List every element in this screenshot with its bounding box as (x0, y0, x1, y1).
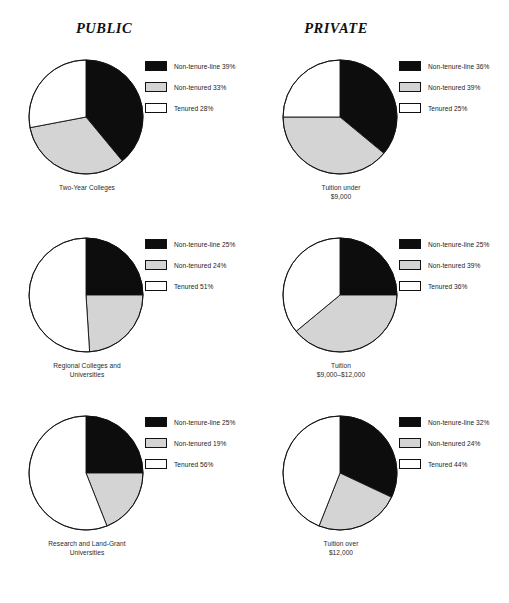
legend-swatch-non-tenure-line (145, 417, 167, 427)
legend-public-research-land-grant: Non-tenure-line 25%Non-tenured 19%Tenure… (145, 414, 257, 477)
legend-label: Non-tenured 24% (174, 261, 226, 270)
caption-line-2: $12,000 (260, 549, 422, 558)
caption-line-2: Universities (6, 371, 168, 380)
panel-public-regional: Regional Colleges andUniversitiesNon-ten… (0, 226, 254, 404)
legend-item[interactable]: Non-tenured 24% (145, 257, 257, 273)
pie-caption-private-tuition-over-12000: Tuition over$12,000 (260, 540, 422, 557)
pie-public-research-land-grant (25, 412, 147, 534)
legend-item[interactable]: Tenured 51% (145, 278, 257, 294)
legend-label: Non-tenure-line 39% (174, 62, 235, 71)
legend-item[interactable]: Tenured 28% (145, 100, 257, 116)
legend-label: Non-tenured 24% (428, 439, 480, 448)
pie-private-tuition-9000-12000 (279, 234, 401, 356)
pie-slice-non-tenure-line[interactable] (86, 416, 143, 473)
pie-caption-public-two-year: Two-Year Colleges (6, 184, 168, 193)
legend-label: Tenured 56% (174, 460, 213, 469)
legend-private-tuition-over-12000: Non-tenure-line 32%Non-tenured 24%Tenure… (399, 414, 509, 477)
pie-caption-private-tuition-under-9000: Tuition under$9,000 (260, 184, 422, 201)
legend-swatch-non-tenure-line (145, 239, 167, 249)
column-headings: PUBLIC PRIVATE (0, 20, 509, 44)
legend-swatch-tenured (145, 281, 167, 291)
panel-public-two-year: Two-Year CollegesNon-tenure-line 39%Non-… (0, 48, 254, 226)
legend-swatch-tenured (399, 103, 421, 113)
legend-label: Tenured 44% (428, 460, 467, 469)
pie-caption-public-regional: Regional Colleges andUniversities (6, 362, 168, 379)
pie-chart-public-research-land-grant[interactable] (25, 412, 147, 534)
legend-label: Tenured 51% (174, 282, 213, 291)
panel-private-tuition-under-9000: Tuition under$9,000Non-tenure-line 36%No… (254, 48, 508, 226)
pie-chart-grid: Two-Year CollegesNon-tenure-line 39%Non-… (0, 48, 509, 582)
figure-root: PUBLIC PRIVATE Two-Year CollegesNon-tenu… (0, 0, 509, 603)
legend-item[interactable]: Non-tenure-line 32% (399, 414, 509, 430)
legend-swatch-non-tenured (145, 438, 167, 448)
legend-item[interactable]: Non-tenure-line 25% (145, 414, 257, 430)
caption-line-1: Regional Colleges and (53, 362, 120, 369)
legend-swatch-non-tenure-line (399, 417, 421, 427)
legend-private-tuition-under-9000: Non-tenure-line 36%Non-tenured 39%Tenure… (399, 58, 509, 121)
legend-swatch-non-tenured (399, 438, 421, 448)
legend-public-two-year: Non-tenure-line 39%Non-tenured 33%Tenure… (145, 58, 257, 121)
legend-public-regional: Non-tenure-line 25%Non-tenured 24%Tenure… (145, 236, 257, 299)
legend-swatch-non-tenure-line (399, 239, 421, 249)
pie-chart-private-tuition-9000-12000[interactable] (279, 234, 401, 356)
legend-label: Non-tenured 33% (174, 83, 226, 92)
pie-slice-non-tenured[interactable] (86, 295, 143, 352)
panel-private-tuition-over-12000: Tuition over$12,000Non-tenure-line 32%No… (254, 404, 508, 582)
caption-line-1: Tuition (331, 362, 351, 369)
legend-item[interactable]: Tenured 25% (399, 100, 509, 116)
legend-item[interactable]: Tenured 44% (399, 456, 509, 472)
caption-line-1: Tuition over (324, 540, 359, 547)
legend-private-tuition-9000-12000: Non-tenure-line 25%Non-tenured 39%Tenure… (399, 236, 509, 299)
pie-chart-private-tuition-over-12000[interactable] (279, 412, 401, 534)
legend-label: Non-tenure-line 25% (174, 418, 235, 427)
pie-slice-tenured[interactable] (29, 60, 86, 128)
legend-swatch-tenured (399, 281, 421, 291)
legend-item[interactable]: Non-tenure-line 25% (399, 236, 509, 252)
panel-row: Regional Colleges andUniversitiesNon-ten… (0, 226, 509, 404)
panel-row: Research and Land-GrantUniversitiesNon-t… (0, 404, 509, 582)
panel-public-research-land-grant: Research and Land-GrantUniversitiesNon-t… (0, 404, 254, 582)
caption-line-1: Two-Year Colleges (59, 184, 115, 191)
pie-caption-public-research-land-grant: Research and Land-GrantUniversities (6, 540, 168, 557)
pie-private-tuition-over-12000 (279, 412, 401, 534)
legend-item[interactable]: Non-tenured 33% (145, 79, 257, 95)
legend-label: Non-tenure-line 25% (174, 240, 235, 249)
legend-item[interactable]: Non-tenure-line 25% (145, 236, 257, 252)
panel-private-tuition-9000-12000: Tuition$9,000–$12,000Non-tenure-line 25%… (254, 226, 508, 404)
legend-item[interactable]: Non-tenured 19% (145, 435, 257, 451)
legend-label: Non-tenured 19% (174, 439, 226, 448)
caption-line-1: Tuition under (322, 184, 361, 191)
legend-label: Tenured 36% (428, 282, 467, 291)
pie-slice-tenured[interactable] (29, 238, 90, 352)
legend-label: Tenured 25% (428, 104, 467, 113)
caption-line-2: $9,000 (260, 193, 422, 202)
pie-public-two-year (25, 56, 147, 178)
legend-item[interactable]: Tenured 36% (399, 278, 509, 294)
caption-line-2: Universities (6, 549, 168, 558)
legend-item[interactable]: Non-tenure-line 36% (399, 58, 509, 74)
legend-item[interactable]: Non-tenured 39% (399, 257, 509, 273)
caption-line-2: $9,000–$12,000 (260, 371, 422, 380)
legend-swatch-tenured (399, 459, 421, 469)
legend-label: Non-tenure-line 25% (428, 240, 489, 249)
pie-public-regional (25, 234, 147, 356)
caption-line-1: Research and Land-Grant (48, 540, 125, 547)
legend-swatch-non-tenured (399, 260, 421, 270)
legend-label: Non-tenure-line 36% (428, 62, 489, 71)
pie-chart-private-tuition-under-9000[interactable] (279, 56, 401, 178)
pie-slice-non-tenure-line[interactable] (86, 238, 143, 295)
pie-chart-public-two-year[interactable] (25, 56, 147, 178)
legend-item[interactable]: Non-tenured 24% (399, 435, 509, 451)
pie-caption-private-tuition-9000-12000: Tuition$9,000–$12,000 (260, 362, 422, 379)
legend-swatch-non-tenure-line (399, 61, 421, 71)
legend-label: Non-tenured 39% (428, 83, 480, 92)
legend-swatch-non-tenured (145, 260, 167, 270)
legend-item[interactable]: Non-tenured 39% (399, 79, 509, 95)
pie-chart-public-regional[interactable] (25, 234, 147, 356)
pie-slice-tenured[interactable] (283, 60, 340, 117)
pie-private-tuition-under-9000 (279, 56, 401, 178)
column-heading-public: PUBLIC (44, 20, 164, 37)
legend-item[interactable]: Tenured 56% (145, 456, 257, 472)
legend-item[interactable]: Non-tenure-line 39% (145, 58, 257, 74)
pie-slice-non-tenure-line[interactable] (340, 238, 397, 295)
